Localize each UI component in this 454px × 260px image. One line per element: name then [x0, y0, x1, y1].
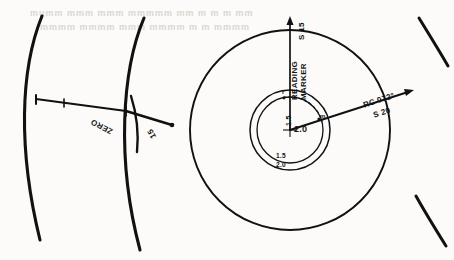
right-upper-arc [419, 18, 448, 66]
left-crossing-stroke [131, 96, 138, 152]
left-inner-arc [125, 18, 144, 250]
label-bottom-1-5: 1.5 [276, 152, 286, 159]
label-bottom-2-0: 2.0 [276, 161, 286, 168]
label-inner-1-5: 1.5 [285, 115, 292, 126]
left-bearing-segment [36, 99, 126, 111]
label-point-r: r [282, 89, 285, 95]
rc-vector-arrowhead [404, 89, 414, 96]
label-point-m: m [320, 113, 326, 119]
left-bearing-segment-2 [126, 111, 172, 125]
diagram-artwork [0, 0, 454, 260]
right-arc-group [416, 18, 448, 246]
label-reading: READING [290, 61, 299, 100]
label-marker: MARKER [299, 63, 308, 100]
left-outer-arc [24, 16, 42, 240]
figure-canvas: mumm mmm mmm mmmmm mm m m m mm mmmm mmmm… [0, 0, 454, 260]
left-arc-group [24, 16, 144, 250]
reading-marker-arrowhead [287, 16, 294, 25]
left-line-endpoint [170, 123, 175, 128]
right-lower-arc [416, 196, 446, 246]
label-inner-2-0: 2.0 [294, 124, 307, 134]
label-s15: S 15 [297, 22, 306, 40]
plot-point-r [283, 97, 286, 100]
